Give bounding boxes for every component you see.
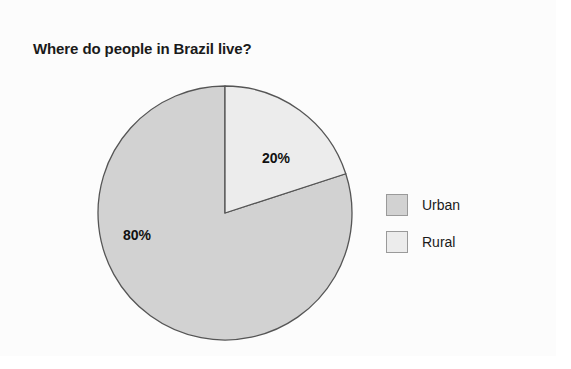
legend-item-rural[interactable]: Rural <box>386 223 526 260</box>
legend-swatch-urban <box>386 194 408 216</box>
chart-screenshot: Where do people in Brazil live? 20% 80% … <box>0 0 571 369</box>
legend-swatch-rural <box>386 231 408 253</box>
legend-item-urban[interactable]: Urban <box>386 186 526 223</box>
legend-label-urban: Urban <box>422 197 460 213</box>
pie-label-rural: 20% <box>262 150 290 166</box>
legend-label-rural: Rural <box>422 234 455 250</box>
pie-label-urban: 80% <box>123 227 151 243</box>
pie-chart <box>88 75 368 355</box>
pie-chart-svg <box>88 75 368 355</box>
chart-legend: Urban Rural <box>386 186 526 260</box>
page-title: Where do people in Brazil live? <box>33 40 252 57</box>
